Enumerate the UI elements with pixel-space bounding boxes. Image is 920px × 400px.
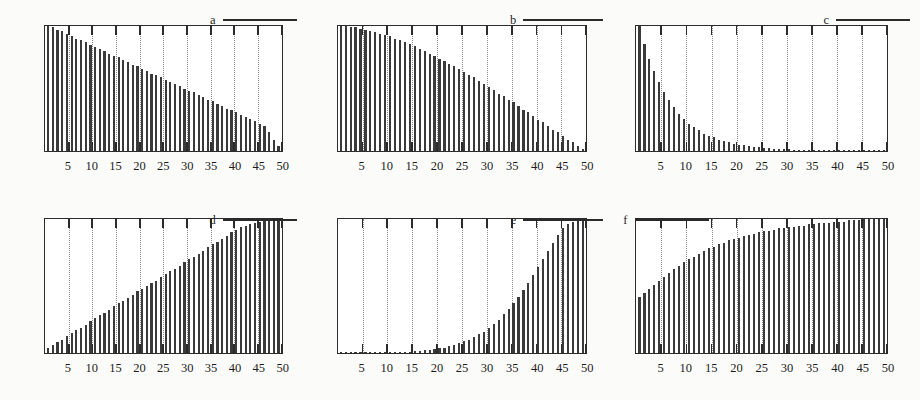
bar <box>883 150 885 151</box>
x-tick-label: 25 <box>157 362 170 375</box>
bar <box>683 262 685 353</box>
x-tick-label: 15 <box>109 160 122 173</box>
bar <box>723 141 725 151</box>
axis-tick-bot <box>281 344 282 353</box>
plot-frame-f <box>635 218 888 354</box>
x-axis-labels-e: 5101520253035404550 <box>337 362 588 380</box>
bar <box>136 66 138 151</box>
bar <box>488 328 490 353</box>
x-axis-labels-a: 5101520253035404550 <box>44 160 283 178</box>
bar <box>99 315 101 353</box>
bar <box>758 232 760 353</box>
x-tick-label: 30 <box>181 160 194 173</box>
bar <box>498 320 500 354</box>
bar <box>738 145 740 151</box>
bar <box>648 59 650 152</box>
x-tick-label: 45 <box>856 160 869 173</box>
bar <box>141 289 143 353</box>
axis-tick-bot <box>886 344 887 353</box>
axis-tick-top <box>585 26 586 35</box>
bar <box>488 87 490 151</box>
x-tick-label: 5 <box>657 362 663 375</box>
bar <box>277 219 279 353</box>
bar <box>202 251 204 353</box>
legend-d: d <box>209 214 296 227</box>
bar <box>438 59 440 152</box>
bar-series <box>638 26 885 151</box>
x-tick-label: 15 <box>406 362 419 375</box>
legend-label-b: b <box>510 14 516 27</box>
x-tick-label: 35 <box>506 362 519 375</box>
bar <box>345 352 347 353</box>
bar <box>443 61 445 151</box>
bar <box>384 35 386 151</box>
bar <box>183 89 185 152</box>
x-tick-label: 45 <box>556 160 569 173</box>
bar <box>748 146 750 151</box>
plot-frame-d <box>44 218 283 354</box>
bar <box>552 130 554 151</box>
bar <box>798 226 800 353</box>
bar <box>688 124 690 152</box>
axis-tick-bot <box>585 142 586 151</box>
axis-tick-top <box>886 26 887 35</box>
bar <box>818 223 820 353</box>
x-tick-label: 35 <box>806 160 819 173</box>
bar <box>66 336 68 353</box>
bar <box>803 226 805 353</box>
x-tick-label: 45 <box>556 362 569 375</box>
x-tick-label: 5 <box>65 362 71 375</box>
plot-area-f <box>636 219 887 353</box>
legend-rule-b <box>523 19 603 21</box>
bar <box>448 346 450 353</box>
bar <box>94 318 96 353</box>
bar <box>429 350 431 353</box>
bar <box>141 69 143 152</box>
bar <box>853 150 855 151</box>
bar <box>638 26 640 151</box>
x-tick-label: 10 <box>680 160 693 173</box>
bar <box>155 75 157 151</box>
bar <box>522 290 524 353</box>
bar <box>547 251 549 353</box>
bar <box>663 92 665 151</box>
bar <box>522 110 524 151</box>
bar <box>47 348 49 353</box>
bar <box>743 236 745 353</box>
bar <box>883 219 885 353</box>
bar <box>848 220 850 353</box>
bar <box>512 102 514 151</box>
bar <box>463 72 465 151</box>
legend-label-c: c <box>823 14 829 27</box>
bar <box>268 220 270 353</box>
bar <box>567 140 569 151</box>
bar <box>350 27 352 151</box>
bar <box>188 91 190 151</box>
bar <box>848 150 850 151</box>
bar <box>169 271 171 353</box>
x-tick-label: 20 <box>431 160 444 173</box>
bar <box>733 144 735 152</box>
bar <box>858 150 860 151</box>
axis-tick-bot <box>585 344 586 353</box>
figure-sheet: a 5101520253035404550 b 5101520253035404… <box>0 0 920 400</box>
bar <box>259 124 261 152</box>
legend-f: f <box>623 214 708 227</box>
bar <box>424 51 426 151</box>
bar <box>61 340 63 353</box>
bar <box>179 266 181 353</box>
x-tick-label: 35 <box>806 362 819 375</box>
bar <box>478 334 480 353</box>
bar <box>783 228 785 353</box>
bar <box>198 254 200 353</box>
bar <box>155 281 157 353</box>
bar <box>473 77 475 151</box>
bar <box>793 227 795 353</box>
x-tick-label: 20 <box>133 362 146 375</box>
bar <box>643 293 645 353</box>
bar <box>728 240 730 353</box>
x-tick-label: 35 <box>506 160 519 173</box>
bar <box>277 146 279 151</box>
bar <box>743 145 745 151</box>
bar <box>75 39 77 152</box>
